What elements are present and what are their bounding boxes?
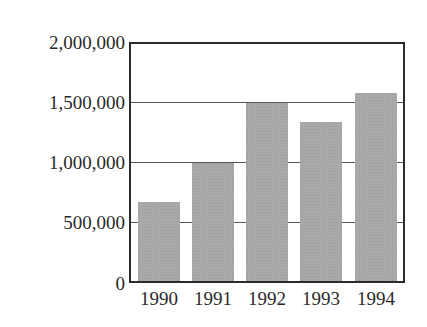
plot-area xyxy=(129,42,405,283)
x-tick-label: 1993 xyxy=(294,288,348,310)
bar-1992 xyxy=(246,103,288,281)
y-tick-label: 0 xyxy=(116,274,126,293)
bar-1994 xyxy=(355,93,397,281)
y-tick-label: 1,000,000 xyxy=(49,153,125,172)
bar-1991 xyxy=(192,163,234,282)
x-tick-label: 1991 xyxy=(186,288,240,310)
y-tick-label: 1,500,000 xyxy=(49,93,125,112)
y-tick-label: 2,000,000 xyxy=(49,33,125,52)
x-tick-label: 1994 xyxy=(349,288,403,310)
x-tick-label: 1992 xyxy=(240,288,294,310)
y-tick-label: 500,000 xyxy=(63,213,125,232)
bar-1990 xyxy=(138,202,180,281)
bar-1993 xyxy=(300,122,342,281)
x-tick-label: 1990 xyxy=(132,288,186,310)
bar-chart: 2,000,000 1,500,000 1,000,000 500,000 0 … xyxy=(0,0,427,327)
